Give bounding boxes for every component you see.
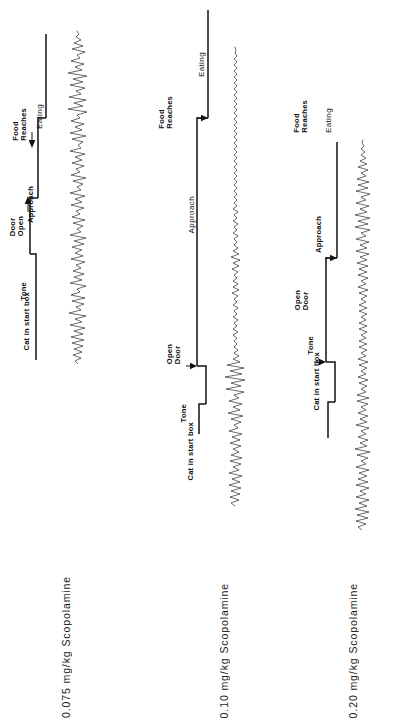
label-line2: Food [158, 96, 166, 129]
eeg-trace-010 [214, 36, 256, 506]
label-cat-in-start-box-0075: Cat in start box [23, 292, 31, 350]
label-line1: Reaches [20, 108, 28, 141]
label-eating-020: Eating [325, 108, 333, 133]
panel-010: Reaches Food Eating Approach Door Open T… [140, 0, 285, 726]
label-open-door-0075: Open Door [9, 216, 24, 236]
label-line1: Door [174, 344, 182, 364]
label-line2: Food [12, 108, 20, 141]
eeg-trace-svg-010 [214, 36, 256, 506]
label-line2: Open [294, 290, 302, 310]
label-eating-010: Eating [198, 52, 206, 77]
label-door-open-010: Door Open [166, 344, 181, 364]
label-reaches-food-010: Reaches Food [158, 96, 173, 129]
label-line2: Open [166, 344, 174, 364]
label-line2: Food [293, 100, 301, 133]
label-reaches-food-0075: Reaches Food [12, 108, 27, 141]
label-approach-010: Approach [188, 196, 196, 233]
label-line2: Door [9, 216, 17, 236]
panel-0075: Reaches Food Eating Approach Open Door T… [0, 0, 140, 726]
eeg-trace-svg-0075 [56, 24, 100, 364]
dose-label-010: 0.10 mg/kg Scopolamine [218, 583, 230, 718]
dose-label-020: 0.20 mg/kg Scopolamine [347, 583, 359, 718]
label-cat-in-start-box-010: Cat in start box [187, 422, 195, 480]
label-line1: Reaches [301, 100, 309, 133]
eeg-trace-0075 [56, 24, 100, 364]
label-line1: Reaches [166, 96, 174, 129]
label-tone-010: Tone [180, 404, 188, 422]
label-line1: Open [17, 216, 25, 236]
label-line1: Door [302, 290, 310, 310]
eeg-figure: Reaches Food Eating Approach Open Door T… [0, 0, 415, 726]
eeg-trace-020 [341, 130, 383, 530]
label-door-open-020: Door Open [294, 290, 309, 310]
dose-label-0075: 0.075 mg/kg Scopolamine [60, 576, 72, 718]
label-reaches-food-020: Reaches Food [293, 100, 308, 133]
label-approach-020: Approach [315, 216, 323, 253]
panel-020: Reaches Food Eating Approach Door Open T… [285, 0, 415, 726]
label-eating-0075: Eating [36, 104, 44, 129]
label-approach-0075: Approach [27, 186, 35, 223]
label-cat-in-start-box-020: Cat in start box [313, 352, 321, 410]
eeg-trace-svg-020 [341, 130, 383, 530]
